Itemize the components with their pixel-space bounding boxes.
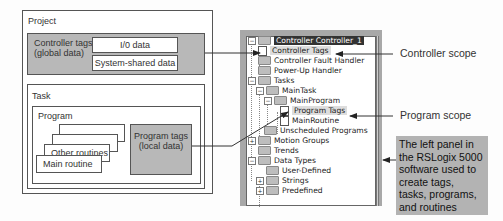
note-line: and routines bbox=[399, 201, 485, 214]
explanation-note: The left panel in the RSLogix 5000 softw… bbox=[396, 136, 488, 215]
program-scope-callout: Program scope bbox=[400, 109, 471, 121]
controller-scope-callout: Controller scope bbox=[400, 47, 476, 59]
note-line: create tags, bbox=[399, 176, 485, 189]
note-line: The left panel in bbox=[399, 138, 485, 151]
note-line: software used to bbox=[399, 163, 485, 176]
note-line: the RSLogix 5000 bbox=[399, 151, 485, 164]
note-line: tasks, programs, bbox=[399, 188, 485, 201]
